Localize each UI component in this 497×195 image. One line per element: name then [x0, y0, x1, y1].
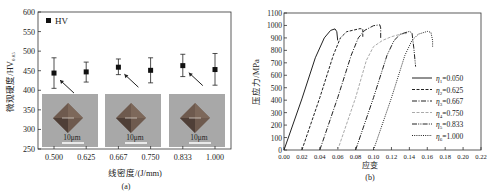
legend-label: η2=0.625 — [436, 86, 464, 96]
x-tick-label: 0.12 — [386, 153, 398, 160]
x-tick-label: 1.000 — [206, 153, 224, 162]
panel-b-x-ticks: 0.000.020.040.060.080.100.120.140.160.18… — [278, 147, 487, 160]
y-tick-label: 250 — [23, 145, 35, 154]
legend-item: η6=1.000 — [412, 132, 464, 142]
x-tick-label: 0.625 — [77, 153, 95, 162]
y-tick-label: 350 — [23, 106, 35, 115]
legend-label: η4=0.750 — [436, 109, 464, 119]
hv-marker — [116, 65, 121, 70]
legend-item: η2=0.625 — [412, 86, 464, 96]
y-tick-label: 500 — [271, 84, 283, 93]
legend-label: η1=0.050 — [436, 74, 464, 84]
hv-marker — [213, 67, 218, 72]
indentation-insets: 10μm10μm10μm — [42, 94, 225, 147]
panel-b-x-axis-label: 应变 — [362, 160, 378, 170]
y-tick-label: 200 — [271, 121, 283, 130]
curve-η4 — [338, 34, 407, 151]
y-tick-label: 450 — [23, 67, 35, 76]
curve-η2 — [302, 29, 363, 150]
y-tick-label: 300 — [23, 125, 35, 134]
legend-label: η6=1.000 — [436, 132, 464, 142]
panel-b-y-axis-label: 压应力/MPa — [251, 59, 261, 105]
panel-a-x-ticks: 0.5000.6250.6670.7500.8331.000 — [45, 146, 224, 162]
y-tick-label: 400 — [271, 96, 283, 105]
y-tick-label: 500 — [23, 47, 35, 56]
figure-root: 10μm10μm10μm 250300350400450500550600 0.… — [0, 0, 497, 195]
legend-label: η5=0.833 — [436, 120, 464, 130]
x-tick-label: 0.16 — [421, 153, 433, 160]
x-tick-label: 0.14 — [404, 153, 416, 160]
x-tick-label: 0.00 — [278, 153, 290, 160]
x-tick-label: 0.667 — [109, 153, 127, 162]
x-tick-label: 0.10 — [368, 153, 380, 160]
x-tick-label: 0.06 — [332, 153, 344, 160]
legend-hv-label: HV — [55, 16, 68, 26]
y-tick-label: 1100 — [267, 9, 282, 18]
scale-bar-label: 10μm — [126, 133, 144, 142]
stress-strain-curves — [284, 25, 433, 150]
y-tick-label: 900 — [271, 34, 283, 43]
y-tick-label: 550 — [23, 28, 35, 37]
panel-b-stress-strain-chart: 010020030040050060070080090010001100 0.0… — [251, 9, 487, 182]
y-tick-label: 800 — [271, 46, 283, 55]
y-tick-label: 600 — [271, 71, 283, 80]
data-point — [148, 58, 153, 83]
legend-label: η3=0.667 — [436, 97, 464, 107]
legend-hv-marker — [46, 18, 51, 23]
panel-b-caption: (b) — [365, 173, 375, 182]
curve-η1 — [284, 29, 338, 150]
panel-a-caption: (a) — [122, 182, 131, 191]
y-tick-label: 300 — [271, 109, 283, 118]
y-tick-label: 600 — [23, 8, 35, 17]
legend-item: η5=0.833 — [412, 120, 464, 130]
data-point — [180, 54, 185, 76]
panel-a-x-axis-label: 线密度/(J/mm) — [108, 168, 162, 178]
data-point — [52, 58, 57, 89]
y-tick-label: 100 — [271, 134, 283, 143]
scale-bar-label: 10μm — [63, 133, 81, 142]
x-tick-label: 0.500 — [45, 153, 63, 162]
data-point — [84, 62, 89, 82]
panel-a-hardness-chart: 10μm10μm10μm 250300350400450500550600 0.… — [5, 8, 231, 191]
legend-item: η3=0.667 — [412, 97, 464, 107]
x-tick-label: 0.22 — [475, 153, 487, 160]
legend-item: η4=0.750 — [412, 109, 464, 119]
indentation-inset: 10μm — [42, 94, 98, 147]
y-tick-label: 700 — [271, 59, 283, 68]
indentation-inset: 10μm — [105, 94, 161, 147]
indentation-inset: 10μm — [169, 94, 225, 147]
inset-arrows — [60, 73, 203, 93]
data-point — [116, 59, 121, 75]
hv-marker — [84, 69, 89, 74]
x-tick-label: 0.08 — [350, 153, 362, 160]
y-tick-label: 400 — [23, 86, 35, 95]
curve-η6 — [374, 31, 433, 150]
hv-marker — [52, 71, 57, 76]
x-tick-label: 0.18 — [439, 153, 451, 160]
data-point — [213, 53, 218, 85]
panel-a-y-axis-label: 微观硬度/HV0.05 — [5, 52, 16, 112]
x-tick-label: 0.20 — [457, 153, 469, 160]
x-tick-label: 0.02 — [296, 153, 308, 160]
x-tick-label: 0.750 — [142, 153, 160, 162]
scale-bar-label: 10μm — [190, 133, 208, 142]
x-tick-label: 0.04 — [314, 153, 326, 160]
x-tick-label: 0.833 — [174, 153, 192, 162]
panel-b-legend: η1=0.050η2=0.625η3=0.667η4=0.750η5=0.833… — [412, 74, 464, 142]
curve-η3 — [320, 25, 381, 150]
hv-marker — [148, 68, 153, 73]
y-tick-label: 1000 — [267, 21, 282, 30]
legend-item: η1=0.050 — [412, 74, 464, 84]
curve-η5 — [356, 31, 416, 150]
hv-marker — [180, 63, 185, 68]
